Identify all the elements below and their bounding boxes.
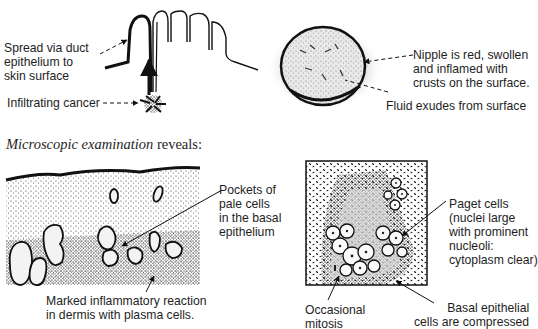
tumour-mass-icon [140,95,166,113]
section-heading: Microscopic examination reveals: [6,137,202,151]
label-infiltrating: Infiltrating cancer [7,96,100,110]
label-inflammatory: Marked inflammatory reaction in dermis w… [46,294,207,322]
label-line: Marked inflammatory reaction [46,294,207,308]
label-line: skin surface [4,69,89,83]
label-line: epithelium to [4,55,89,69]
label-nipple: Nipple is red, swollen and inflamed with… [413,48,530,90]
label-line: Occasional [305,303,365,317]
label-line: crusts on the surface. [413,76,530,90]
label-line: Nipple is red, swollen [413,48,530,62]
label-mitosis: Occasional mitosis [305,303,365,329]
label-line: epithelium [219,225,281,239]
label-line: Pockets of [219,183,281,197]
nipple-illustration [267,26,383,110]
label-pockets: Pockets of pale cells in the basal epith… [219,183,281,239]
label-line: in dermis with plasma cells. [46,308,207,322]
epidermis-section [6,168,222,293]
label-line: cytoplasm clear) [449,253,538,267]
label-line: with prominent [449,225,538,239]
label-paget-cells: Paget cells (nuclei large with prominent… [449,197,538,267]
label-line: and inflamed with [413,62,530,76]
label-line: pale cells [219,197,281,211]
heading-rest: reveals: [153,136,202,152]
label-line: cells are compressed [414,315,529,329]
label-line: Basal epithelial [414,301,529,315]
paget-histology-box [306,161,446,303]
label-basal: Basal epithelial cells are compressed [414,301,529,329]
label-spread: Spread via duct epithelium to skin surfa… [4,41,89,83]
spread-leader-arrow [100,40,127,54]
label-line: (nuclei large [449,211,538,225]
label-fluid: Fluid exudes from surface [386,99,526,113]
label-line: Paget cells [449,197,538,211]
duct-schematic [105,11,258,113]
label-line: Spread via duct [4,41,89,55]
label-line: nucleoli: [449,239,538,253]
label-line: mitosis [305,317,365,329]
label-line: in the basal [219,211,281,225]
heading-italic: Microscopic examination [6,136,153,152]
